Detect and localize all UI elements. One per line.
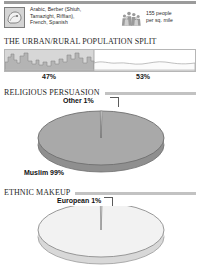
religion-callout-muslim: Muslim 99% xyxy=(24,169,64,176)
density-text: 155 people per sq. mile xyxy=(142,6,173,23)
ethnic-pie-chart xyxy=(0,206,200,267)
section-title-ethnic: ETHNIC MAKEUP xyxy=(4,188,70,197)
section-rule xyxy=(105,92,196,95)
section-header-urban-rural: THE URBAN/RURAL POPULATION SPLIT xyxy=(4,36,196,47)
top-divider xyxy=(4,1,196,4)
languages-line-1: Arabic, Berber (Shiuh, xyxy=(30,6,81,13)
density-line-2: per sq. mile xyxy=(146,17,173,24)
languages-text: Arabic, Berber (Shiuh, Tamazight, Riffia… xyxy=(25,6,81,26)
section-title-urban-rural: THE URBAN/RURAL POPULATION SPLIT xyxy=(4,37,156,46)
ethnic-callout-european: European 1% xyxy=(57,197,101,204)
urban-percent-label: 47% xyxy=(42,73,56,80)
infographic-page: Arabic, Berber (Shiuh, Tamazight, Riffia… xyxy=(0,0,200,267)
rural-percent-label: 53% xyxy=(136,73,150,80)
speech-head-icon xyxy=(4,7,25,28)
fact-row: Arabic, Berber (Shiuh, Tamazight, Riffia… xyxy=(4,6,196,34)
section-rule xyxy=(75,192,196,195)
urban-rural-labels: 47% 53% xyxy=(4,73,196,83)
section-header-religion: RELIGIOUS PERSUASION xyxy=(4,87,196,98)
density-line-1: 155 people xyxy=(146,10,173,17)
fact-population-density: 155 people per sq. mile xyxy=(120,6,196,29)
religion-callout-other: Other 1% xyxy=(63,97,94,104)
fact-languages: Arabic, Berber (Shiuh, Tamazight, Riffia… xyxy=(4,6,120,28)
section-title-religion: RELIGIOUS PERSUASION xyxy=(4,88,100,97)
languages-line-2: Tamazight, Riffian), xyxy=(30,13,81,20)
languages-line-3: French, Spanish xyxy=(30,19,81,26)
people-crowd-icon xyxy=(120,7,142,29)
urban-rural-chart xyxy=(4,49,196,72)
religion-pie-chart xyxy=(0,106,200,178)
